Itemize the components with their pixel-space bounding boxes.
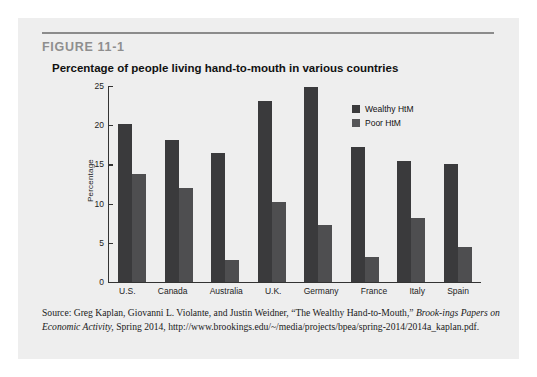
bar	[118, 124, 132, 282]
bar-group	[304, 86, 332, 282]
bar	[458, 247, 472, 282]
bar-groups	[109, 86, 481, 282]
figure-page: FIGURE 11-1 Percentage of people living …	[0, 0, 537, 377]
x-axis-label: Canada	[158, 286, 188, 296]
source-line1-prefix: Source: Greg Kaplan, Giovanni L. Violant…	[42, 307, 416, 318]
bar-group	[211, 86, 239, 282]
bar	[397, 161, 411, 282]
legend-swatch-icon	[352, 119, 360, 127]
bar	[351, 147, 365, 282]
y-axis-tick: 10	[95, 199, 109, 209]
x-axis-label: Italy	[409, 286, 425, 296]
bar	[272, 202, 286, 282]
legend-item-poor-htm: Poor HtM	[352, 118, 414, 128]
figure-title: Percentage of people living hand-to-mout…	[52, 62, 398, 74]
y-axis-label: Percentage	[86, 141, 95, 221]
x-axis-label: Australia	[210, 286, 243, 296]
bar-group	[444, 86, 472, 282]
y-axis-tick: 5	[99, 238, 109, 248]
x-axis-label: France	[361, 286, 387, 296]
bar-group	[118, 86, 146, 282]
y-axis-tick: 25	[95, 81, 109, 91]
chart-legend: Wealthy HtM Poor HtM	[352, 104, 414, 132]
bar	[304, 87, 318, 282]
source-line1-italic: Brook-	[416, 307, 442, 318]
bar	[365, 257, 379, 282]
figure-panel: FIGURE 11-1 Percentage of people living …	[18, 18, 519, 359]
bar	[318, 225, 332, 282]
x-axis-label: U.K.	[265, 286, 282, 296]
source-citation: Source: Greg Kaplan, Giovanni L. Violant…	[42, 306, 504, 333]
header-divider	[42, 32, 494, 34]
legend-label: Poor HtM	[365, 118, 401, 128]
x-axis-labels: U.S.CanadaAustraliaU.K.GermanyFranceItal…	[108, 286, 480, 296]
bar-group	[165, 86, 193, 282]
bar	[211, 153, 225, 282]
y-axis-tick: 20	[95, 120, 109, 130]
bar	[132, 174, 146, 282]
bar	[444, 164, 458, 282]
figure-number: FIGURE 11-1	[42, 40, 125, 54]
bar	[411, 218, 425, 282]
plot-area: 0510152025	[108, 86, 481, 283]
x-axis-label: Germany	[304, 286, 339, 296]
x-axis-label: Spain	[447, 286, 469, 296]
bar	[179, 188, 193, 282]
source-line3: 2014/2014a_kaplan.pdf.	[386, 321, 479, 332]
legend-swatch-icon	[352, 105, 360, 113]
bar	[225, 260, 239, 282]
x-axis-label: U.S.	[119, 286, 136, 296]
bar	[165, 140, 179, 282]
bar-chart: Percentage 0510152025 U.S.CanadaAustrali…	[56, 80, 486, 310]
bar-group	[258, 86, 286, 282]
legend-item-wealthy-htm: Wealthy HtM	[352, 104, 414, 114]
y-axis-tick: 15	[95, 159, 109, 169]
bar	[258, 101, 272, 282]
source-line2-rest: Spring 2014, http://www.brookings.edu/~/…	[114, 321, 386, 332]
legend-label: Wealthy HtM	[365, 104, 414, 114]
